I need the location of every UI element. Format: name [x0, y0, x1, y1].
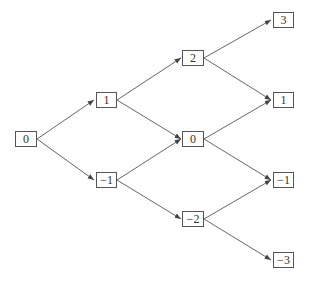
edge-arrow: [117, 58, 181, 100]
node-level3-minus1: −1: [273, 172, 294, 188]
edge-arrow: [117, 100, 181, 139]
node-level1-minus1: −1: [96, 172, 117, 188]
binomial-tree-diagram: 0 1 −1 2 0 −2 3 1 −1 −3: [0, 0, 310, 286]
edge-arrow: [204, 20, 271, 58]
edge-arrow: [37, 100, 94, 139]
node-level3-1: 1: [273, 92, 294, 108]
edge-arrow: [204, 58, 271, 100]
node-level1-1: 1: [96, 92, 117, 108]
node-level0-0: 0: [15, 131, 37, 147]
node-level2-minus2: −2: [182, 211, 204, 227]
edge-arrow: [117, 180, 181, 219]
node-level2-0: 0: [182, 131, 204, 147]
node-level3-minus3: −3: [273, 252, 294, 268]
edge-arrow: [117, 139, 181, 180]
edge-arrow: [204, 219, 271, 260]
edge-arrow: [204, 180, 271, 219]
node-level2-2: 2: [182, 50, 204, 66]
edge-arrow: [204, 100, 271, 139]
edge-arrow: [204, 139, 271, 180]
edge-arrow: [37, 139, 94, 180]
edge-layer: [0, 0, 310, 286]
node-level3-3: 3: [273, 12, 294, 28]
